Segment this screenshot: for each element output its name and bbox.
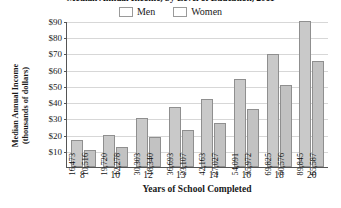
bar-women-14[interactable]: 27,027 [214,123,226,167]
y-tick-label: $80 [49,34,63,43]
x-tick-label: 14 [197,170,230,180]
bar-women-20[interactable]: 65,587 [312,61,324,167]
bar-women-10[interactable]: 12,278 [116,147,128,167]
chart-legend: Men Women [0,6,341,17]
x-tick-label: 12 [132,170,165,180]
x-axis-title: Years of School Completed [66,184,328,194]
x-tick-label: 10 [99,170,132,180]
x-tick-label: 18 [263,170,296,180]
plot-area: $90$80$70$60$50$40$30$20$10 16,47310,516… [66,22,328,168]
x-tick-label: 8 [66,170,99,180]
bar-women-12[interactable]: 18,340 [149,137,161,167]
legend-label-men: Men [137,6,155,17]
bar-men-20[interactable]: 89,845 [299,21,311,167]
bar-women-18[interactable]: 50,576 [280,85,292,167]
bar-group: 54,09135,972 [230,22,263,167]
bar-group: 89,84565,587 [295,22,328,167]
bar-group: 30,30318,340 [132,22,165,167]
y-axis-title-line1: Median Annual Income [11,36,21,176]
y-tick-label: $10 [49,147,63,156]
y-tick-label: $70 [49,50,63,59]
bar-group: 16,47310,516 [67,22,100,167]
x-axis-ticks: 810121314161820 [66,170,328,180]
bar-group: 69,82550,576 [263,22,296,167]
bar-women-8[interactable]: 10,516 [84,150,96,167]
y-tick-label: $50 [49,82,63,91]
bar-group: 19,72012,278 [100,22,133,167]
legend-item-women: Women [173,6,222,17]
bar-groups: 16,47310,51619,72012,27830,30318,34036,6… [67,22,328,167]
bar-women-16[interactable]: 35,972 [247,109,259,167]
bar-group: 42,16327,027 [198,22,231,167]
bar-group: 36,69323,107 [165,22,198,167]
legend-swatch-men [119,7,133,17]
y-axis-title-line2: (thousands of dollars) [21,36,31,176]
x-tick-label: 20 [295,170,328,180]
y-tick-label: $60 [49,66,63,75]
y-tick-label: $40 [49,99,63,108]
y-tick-label: $30 [49,115,63,124]
legend-label-women: Women [191,6,222,17]
bar-women-13[interactable]: 23,107 [182,130,194,167]
y-axis-title: Median Annual Income (thousands of dolla… [11,36,30,176]
legend-swatch-women [173,7,187,17]
x-tick-label: 16 [230,170,263,180]
y-tick-label: $20 [49,131,63,140]
chart-container: Median Annual Income, by Level of Educat… [0,0,341,208]
y-tick-label: $90 [49,18,63,27]
x-tick-label: 13 [164,170,197,180]
chart-title: Median Annual Income, by Level of Educat… [0,0,341,3]
bar-men-18[interactable]: 69,825 [267,54,279,167]
legend-item-men: Men [119,6,155,17]
